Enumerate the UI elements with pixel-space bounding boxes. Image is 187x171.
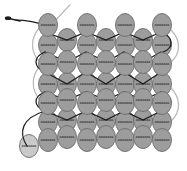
bead [39,53,58,76]
bead [116,53,135,76]
bead [134,89,153,112]
bead [58,89,77,112]
bead [58,51,77,74]
bead [39,129,58,152]
bead [39,14,58,37]
bead [97,126,116,149]
needle-eye [5,16,11,20]
bead [116,92,135,115]
bead [20,135,39,158]
bead [97,89,116,112]
beadwork-canvas [0,0,187,171]
bead [153,53,172,76]
bead [97,51,116,74]
bead [58,126,77,149]
bead [78,129,97,152]
bead [78,92,97,115]
bead [153,14,172,37]
bead [78,53,97,76]
bead [116,14,135,37]
bead [134,126,153,149]
beadwork-diagram [0,0,187,171]
bead [153,129,172,152]
bead [153,92,172,115]
bead [134,51,153,74]
bead [78,14,97,37]
bead [39,92,58,115]
bead [116,129,135,152]
